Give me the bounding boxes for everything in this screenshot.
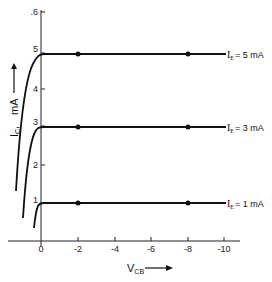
x-tick-label: -10: [217, 244, 230, 254]
y-tick-label: 1: [33, 195, 38, 205]
x-tick-labels: 0 -2 -4 -6 -8 -10: [38, 244, 230, 254]
svg-text:IC,: IC,: [8, 126, 21, 137]
curve-ie-1ma: [34, 203, 226, 228]
y-tick-label: 2: [33, 160, 38, 170]
y-ticks: [41, 12, 45, 203]
y-tick-label: 5: [33, 44, 38, 54]
y-tick-label: 4: [33, 84, 38, 94]
curve-label-1ma: IE= 1 mA: [227, 198, 264, 210]
x-ticks: [78, 237, 224, 241]
curve-ie-5ma: [16, 54, 226, 191]
curve-label-5ma: IE= 5 mA: [227, 49, 264, 61]
chart: .6 5 4 3 2 1 0 -2 -4 -6 -8 -10 IE= 5 mA …: [0, 0, 272, 282]
svg-text:mA: mA: [8, 98, 20, 115]
x-tick-label: -6: [147, 244, 155, 254]
x-axis-title: VCB: [127, 262, 173, 275]
y-tick-labels: .6 5 4 3 2 1: [30, 7, 38, 205]
svg-text:VCB: VCB: [127, 262, 144, 275]
data-markers: [76, 52, 191, 206]
y-axis-title: IC, mA: [8, 63, 21, 137]
x-tick-label: -4: [111, 244, 119, 254]
y-tick-label: .6: [30, 7, 38, 17]
x-tick-label: 0: [38, 244, 43, 254]
y-tick-label: 3: [33, 117, 38, 127]
x-tick-label: -2: [74, 244, 82, 254]
x-tick-label: -8: [184, 244, 192, 254]
curve-ie-3ma: [23, 127, 226, 218]
curve-label-3ma: IE= 3 mA: [227, 122, 264, 134]
